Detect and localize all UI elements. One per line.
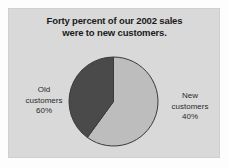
pie-label-old-line-2: customers bbox=[12, 96, 76, 107]
pie-label-old-line-1: Old bbox=[12, 85, 76, 96]
chart-title: Forty percent of our 2002 sales were to … bbox=[0, 15, 229, 38]
pie-graphic bbox=[68, 56, 159, 147]
pie-label-new-line-1: New bbox=[158, 91, 222, 102]
chart-title-line-1: Forty percent of our 2002 sales bbox=[0, 15, 229, 27]
pie-label-old-value: 60% bbox=[12, 106, 76, 117]
pie-label-new-line-2: customers bbox=[158, 102, 222, 113]
pie-label-new-customers: New customers 40% bbox=[158, 91, 222, 123]
pie-chart-figure: Forty percent of our 2002 sales were to … bbox=[0, 0, 229, 168]
pie-label-old-customers: Old customers 60% bbox=[12, 85, 76, 117]
chart-title-line-2: were to new customers. bbox=[0, 27, 229, 39]
pie-svg bbox=[68, 56, 159, 147]
pie-label-new-value: 40% bbox=[158, 112, 222, 123]
